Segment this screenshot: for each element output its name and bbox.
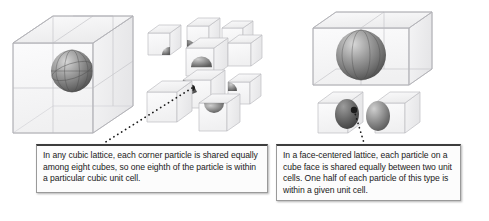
right-assembled-block — [313, 12, 432, 85]
left-exploded-cubes — [147, 18, 262, 131]
corner-particle-callout: In any cubic lattice, each corner partic… — [36, 144, 268, 193]
exploded-cube — [147, 81, 192, 122]
face-centered-particle-callout: In a face-centered lattice, each particl… — [276, 144, 461, 201]
face-centered-particle-callout-text: In a face-centered lattice, each particl… — [283, 150, 454, 196]
corner-particle-callout-text: In any cubic lattice, each corner partic… — [43, 150, 261, 185]
left-assembled-block — [13, 16, 133, 133]
exploded-cube — [199, 94, 240, 131]
right-center-sphere — [336, 30, 386, 80]
figure-root: In any cubic lattice, each corner partic… — [0, 0, 489, 221]
exploded-cube-highlight — [318, 92, 363, 133]
exploded-cube — [148, 25, 181, 55]
right-exploded-cubes — [318, 92, 420, 133]
exploded-cube — [228, 35, 262, 66]
exploded-cube — [366, 92, 420, 133]
